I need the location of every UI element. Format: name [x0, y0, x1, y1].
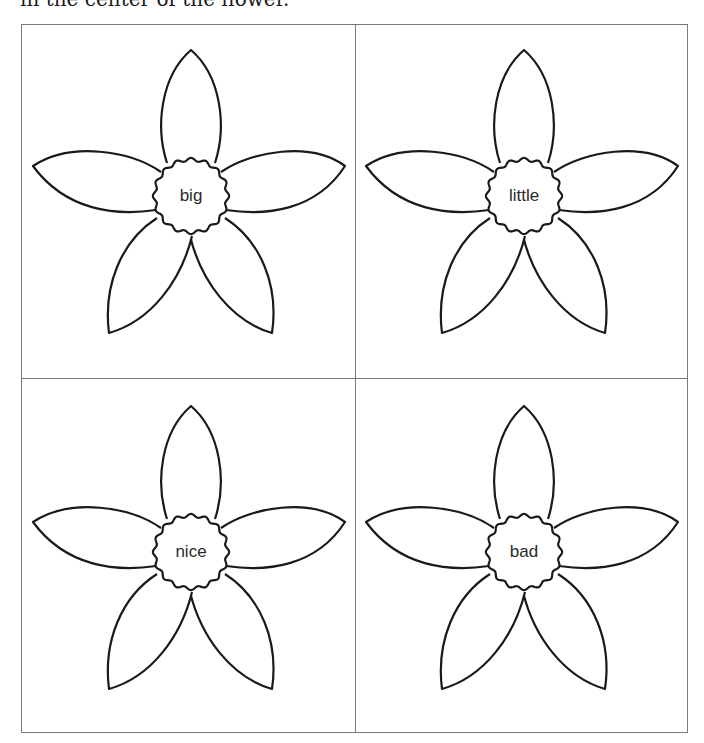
flower-center-word: nice: [151, 542, 231, 562]
flower-center-word: big: [151, 186, 231, 206]
flower-center-word: bad: [484, 542, 564, 562]
flowers-artwork: [0, 0, 704, 743]
flower-center-word: little: [484, 186, 564, 206]
